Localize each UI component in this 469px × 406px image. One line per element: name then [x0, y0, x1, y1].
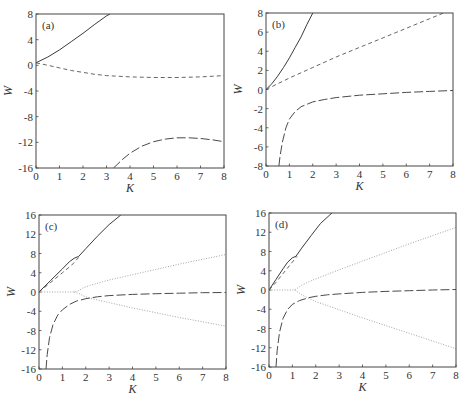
y-tick-label: 16: [25, 209, 37, 221]
series-longdash-line: [114, 138, 225, 168]
y-tick-label: 8: [28, 8, 34, 20]
y-tick-label: -8: [27, 325, 37, 337]
x-tick-label: 0: [263, 168, 269, 180]
y-tick-label: 4: [31, 267, 37, 279]
y-tick-label: -8: [257, 323, 267, 335]
series-longdash-line: [279, 91, 453, 167]
series-dash-line: [269, 256, 297, 290]
series-dash-line: [36, 63, 224, 78]
series-group: [39, 215, 226, 369]
x-tick-label: 7: [427, 168, 433, 180]
y-tick-label: -4: [254, 122, 264, 134]
series-dash-line: [39, 257, 79, 292]
x-tick-label: 6: [174, 170, 180, 182]
panel-d: 012345678-16-12-8-40481216KW(d): [234, 207, 459, 394]
panel-a: 012345678-16-12-8-4048KW(a): [1, 8, 227, 195]
y-tick-label: 16: [255, 207, 267, 219]
y-tick-label: -4: [27, 305, 37, 317]
y-tick-label: -8: [254, 160, 264, 172]
series-longdash-line: [276, 290, 456, 368]
x-tick-label: 3: [333, 168, 339, 180]
x-tick-label: 5: [383, 369, 389, 381]
x-tick-label: 0: [266, 369, 272, 381]
y-tick-label: 4: [261, 265, 267, 277]
x-tick-label: 2: [80, 170, 86, 182]
figure-four-panel-dispersion: 012345678-16-12-8-4048KW(a) 012345678-8-…: [0, 0, 469, 406]
y-tick-label: 6: [258, 26, 264, 38]
x-tick-label: 8: [453, 369, 459, 381]
y-tick-label: -12: [251, 342, 266, 354]
series-group: [269, 213, 456, 367]
x-axis-label: K: [127, 382, 137, 396]
series-group: [36, 14, 224, 168]
series-longdash-line: [46, 293, 226, 370]
x-axis-label: K: [125, 181, 135, 195]
axes-frame: [266, 13, 453, 166]
y-tick-label: 8: [258, 7, 264, 19]
y-tick-label: 0: [258, 84, 264, 96]
x-tick-label: 6: [404, 168, 410, 180]
axes-frame: [36, 14, 224, 168]
panel-b: 012345678-8-6-4-202468KW(b): [231, 7, 456, 193]
y-tick-label: 2: [258, 64, 264, 76]
x-tick-label: 5: [380, 168, 386, 180]
x-tick-label: 5: [151, 170, 157, 182]
panel-label: (d): [275, 218, 288, 231]
x-tick-label: 7: [200, 371, 206, 383]
y-tick-label: -2: [254, 103, 263, 115]
panel-label: (b): [272, 18, 285, 31]
y-tick-label: 0: [261, 284, 267, 296]
x-tick-label: 8: [223, 371, 229, 383]
x-tick-label: 7: [198, 170, 204, 182]
x-tick-label: 1: [57, 170, 63, 182]
axes-frame: [39, 215, 226, 369]
x-tick-label: 3: [336, 369, 342, 381]
x-axis-label: K: [354, 179, 364, 193]
series-dot-line: [269, 227, 456, 290]
y-tick-label: -16: [21, 363, 36, 375]
x-tick-label: 1: [290, 369, 296, 381]
y-tick-label: 0: [28, 59, 34, 71]
panel-label: (a): [42, 19, 55, 32]
x-tick-label: 3: [104, 170, 110, 182]
y-tick-label: -12: [18, 136, 33, 148]
x-tick-label: 6: [407, 369, 413, 381]
y-tick-label: -4: [24, 85, 34, 97]
x-tick-label: 7: [430, 369, 436, 381]
y-tick-label: -16: [18, 162, 33, 174]
series-dot-line: [295, 290, 456, 349]
y-tick-label: -8: [24, 111, 34, 123]
x-tick-label: 2: [310, 168, 316, 180]
y-axis-label: W: [234, 284, 248, 295]
axes-frame: [269, 213, 456, 367]
x-tick-label: 1: [60, 371, 66, 383]
series-dot-line: [39, 255, 226, 293]
x-tick-label: 0: [36, 371, 42, 383]
y-axis-label: W: [1, 85, 15, 96]
panel-c: 012345678-16-12-8-40481216KW(c): [4, 209, 229, 396]
x-tick-label: 3: [106, 371, 112, 383]
series-group: [266, 13, 453, 166]
y-axis-label: W: [231, 84, 245, 95]
panel-label: (c): [45, 220, 58, 233]
y-tick-label: 12: [255, 226, 266, 238]
y-tick-label: 8: [31, 248, 37, 260]
y-tick-label: -4: [257, 303, 267, 315]
y-tick-label: 4: [28, 34, 34, 46]
x-tick-label: 8: [450, 168, 456, 180]
y-tick-label: -12: [21, 344, 36, 356]
y-tick-label: 0: [31, 286, 37, 298]
x-tick-label: 8: [221, 170, 227, 182]
x-tick-label: 2: [313, 369, 319, 381]
y-axis-label: W: [4, 286, 18, 297]
y-tick-label: 8: [261, 246, 267, 258]
y-tick-label: 12: [25, 228, 36, 240]
y-tick-label: -6: [254, 141, 264, 153]
y-tick-label: 4: [258, 45, 264, 57]
x-tick-label: 1: [287, 168, 293, 180]
x-tick-label: 0: [33, 170, 39, 182]
x-axis-label: K: [357, 380, 367, 394]
x-tick-label: 5: [153, 371, 159, 383]
x-tick-label: 6: [177, 371, 183, 383]
x-tick-label: 2: [83, 371, 89, 383]
